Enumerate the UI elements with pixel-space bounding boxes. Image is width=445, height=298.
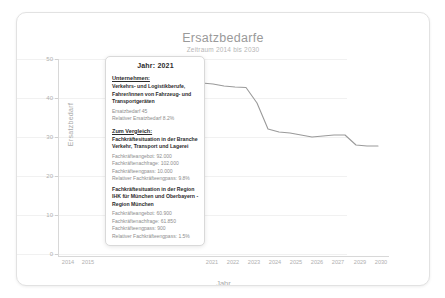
tooltip-branch-row: Fachkräftenachfrage: 102.000 (112, 160, 199, 168)
tooltip-region-heading: Fachkräftesituation in der Region IHK fü… (112, 186, 199, 209)
tooltip-company-row: Ersatzbedarf 45 (112, 108, 199, 116)
tooltip-company-row: Relativer Ersatzbedarf 8.2% (112, 115, 199, 123)
tooltip-branch-row: Fachkräfteengpass: 10.000 (112, 168, 199, 176)
tooltip-region-row: Relativer Fachkräfteengpass: 1.5% (112, 233, 199, 241)
tooltip-region-row: Fachkräftenachfrage: 61.850 (112, 218, 199, 226)
chart-tooltip: Jahr: 2021 Unternehmen: Verkehrs- und Lo… (105, 56, 205, 246)
screenshot-root: Ersatzbedarfe Zeitraum 2014 bis 2030 50 … (0, 0, 445, 298)
tooltip-compare-heading: Zum Vergleich: (112, 128, 199, 134)
tooltip-branch-row: Relativer Fachkräfteengpass: 9.8% (112, 175, 199, 183)
tooltip-title: Jahr: 2021 (112, 62, 199, 69)
series-ersatzbedarf (17, 13, 429, 285)
tooltip-region-row: Fachkräfteangebot: 60.900 (112, 210, 199, 218)
tooltip-company-heading: Unternehmen: (112, 75, 199, 81)
tooltip-branch-heading: Fachkräftesituation in der Branche Verke… (112, 136, 199, 151)
tooltip-region-row: Fachkräfteengpass: 900 (112, 225, 199, 233)
tooltip-company-name: Verkehrs- und Logistikberufe, Fahrer/inn… (112, 83, 199, 106)
chart-card: Ersatzbedarfe Zeitraum 2014 bis 2030 50 … (16, 12, 430, 286)
tooltip-branch-row: Fachkräfteangebot: 92.000 (112, 153, 199, 161)
